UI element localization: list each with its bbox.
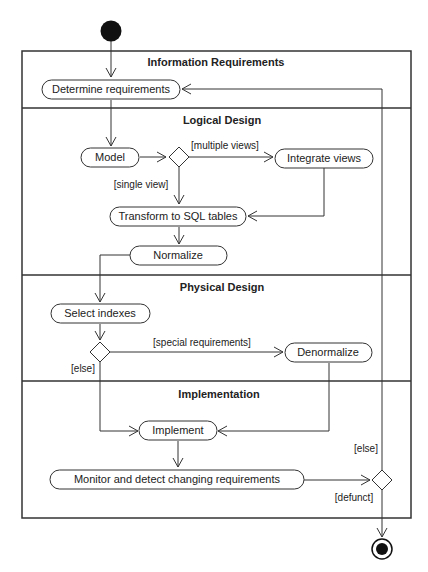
label-integrate: Integrate views — [287, 152, 361, 164]
label-implement: Implement — [152, 424, 203, 436]
guard-special-requirements: [special requirements] — [153, 337, 251, 348]
edge-normalize-select — [100, 255, 130, 302]
final-node-core-icon — [376, 543, 388, 555]
label-monitor: Monitor and detect changing requirements — [74, 473, 281, 485]
label-select-indexes: Select indexes — [64, 307, 136, 319]
guard-single-view: [single view] — [114, 179, 169, 190]
lane-title-implementation: Implementation — [178, 388, 260, 400]
lane-title-logical-design: Logical Design — [183, 114, 262, 126]
decision-special-icon — [90, 342, 110, 362]
label-determine: Determine requirements — [52, 83, 170, 95]
label-transform: Transform to SQL tables — [118, 210, 238, 222]
guard-else-loop: [else] — [354, 443, 378, 454]
label-normalize: Normalize — [153, 249, 203, 261]
label-model: Model — [95, 151, 125, 163]
edge-integrate-transform — [248, 168, 324, 216]
guard-else-physical: [else] — [71, 363, 95, 374]
guard-multiple-views: [multiple views] — [191, 140, 259, 151]
decision-loop-icon — [372, 470, 392, 490]
label-denormalize: Denormalize — [297, 346, 359, 358]
edge-else-implement — [100, 362, 138, 431]
decision-views-icon — [169, 147, 189, 167]
activity-diagram: Information Requirements Logical Design … — [0, 0, 428, 572]
initial-node-icon — [101, 21, 122, 42]
lane-title-information-requirements: Information Requirements — [148, 56, 285, 68]
lane-title-physical-design: Physical Design — [180, 281, 265, 293]
guard-defunct: [defunct] — [335, 492, 374, 503]
